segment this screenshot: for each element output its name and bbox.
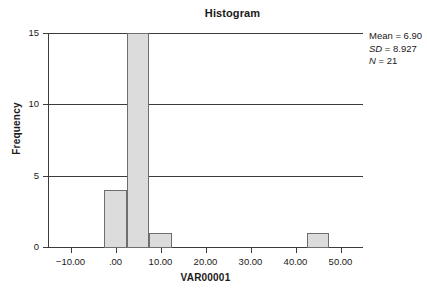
histogram-bar [307, 233, 330, 248]
stat-equals-sd: = [382, 43, 393, 54]
stat-equals-mean: = [393, 30, 404, 41]
histogram-figure: Histogram 15 10 5 0 −10.00 .00 10.00 20.… [0, 0, 427, 296]
x-tick-mark-neg10 [71, 248, 72, 253]
x-tick-mark-40 [296, 248, 297, 253]
x-tick-mark-50 [341, 248, 342, 253]
stat-equals-n: = [376, 55, 387, 66]
stat-line-n: N = 21 [369, 55, 422, 68]
y-tick-mark-10 [43, 104, 48, 105]
stat-line-mean: Mean = 6.90 [369, 30, 422, 43]
stat-line-sd: SD = 8.927 [369, 43, 422, 56]
statistics-annotation: Mean = 6.90 SD = 8.927 N = 21 [369, 30, 422, 68]
chart-title: Histogram [0, 7, 427, 19]
histogram-bar [127, 33, 150, 248]
y-tick-mark-15 [43, 33, 48, 34]
gridline-5 [48, 176, 363, 177]
stat-value-sd: 8.927 [393, 43, 417, 54]
x-tick-mark-0 [116, 248, 117, 253]
histogram-bar [104, 190, 127, 248]
chart-title-text: Histogram [205, 7, 260, 19]
stat-label-mean: Mean [369, 30, 393, 41]
stat-label-n: N [369, 55, 376, 66]
x-tick-mark-20 [206, 248, 207, 253]
y-tick-mark-0 [43, 247, 48, 248]
y-tick-label-15: 15 [0, 28, 39, 38]
stat-value-mean: 6.90 [404, 30, 423, 41]
y-tick-label-0: 0 [0, 242, 39, 252]
x-tick-mark-10 [161, 248, 162, 253]
gridline-10 [48, 104, 363, 105]
x-axis-title: VAR00001 [48, 272, 363, 283]
gridline-15 [48, 33, 363, 34]
y-tick-mark-5 [43, 176, 48, 177]
stat-value-n: 21 [387, 55, 398, 66]
histogram-bar [149, 233, 172, 248]
y-axis-title: Frequency [11, 79, 22, 179]
x-tick-label-50: 50.00 [311, 256, 371, 267]
plot-area [48, 33, 363, 247]
stat-label-sd: SD [369, 43, 382, 54]
x-tick-mark-30 [251, 248, 252, 253]
